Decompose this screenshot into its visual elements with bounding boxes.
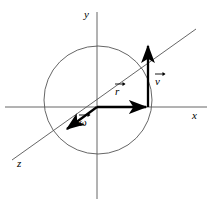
orbit-circle (44, 46, 152, 154)
radius-vector-label-text: r (115, 85, 119, 97)
velocity-vector-label-text: v (155, 75, 160, 87)
x-axis-label: x (192, 110, 197, 121)
y-axis-label: y (84, 9, 89, 20)
angular-velocity-vector-label: ω (79, 117, 87, 128)
velocity-vector-label: v (155, 76, 160, 87)
radius-vector-label: r (115, 86, 119, 97)
z-axis-line (12, 29, 196, 160)
angular-velocity-vector-label-text: ω (79, 116, 87, 128)
physics-diagram-canvas: y x z r v (0, 0, 213, 215)
z-axis-label: z (17, 158, 21, 169)
diagram-svg (0, 0, 213, 215)
